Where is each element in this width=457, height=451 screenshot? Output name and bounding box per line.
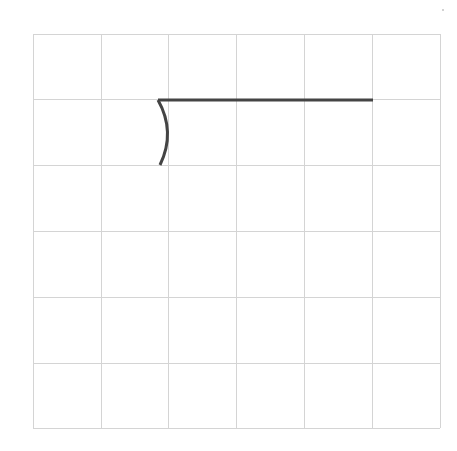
curved-stroke <box>158 100 168 165</box>
strokes <box>158 100 373 165</box>
grid <box>33 34 441 429</box>
marker-dot <box>442 9 444 11</box>
drawing-canvas[interactable] <box>0 0 457 451</box>
